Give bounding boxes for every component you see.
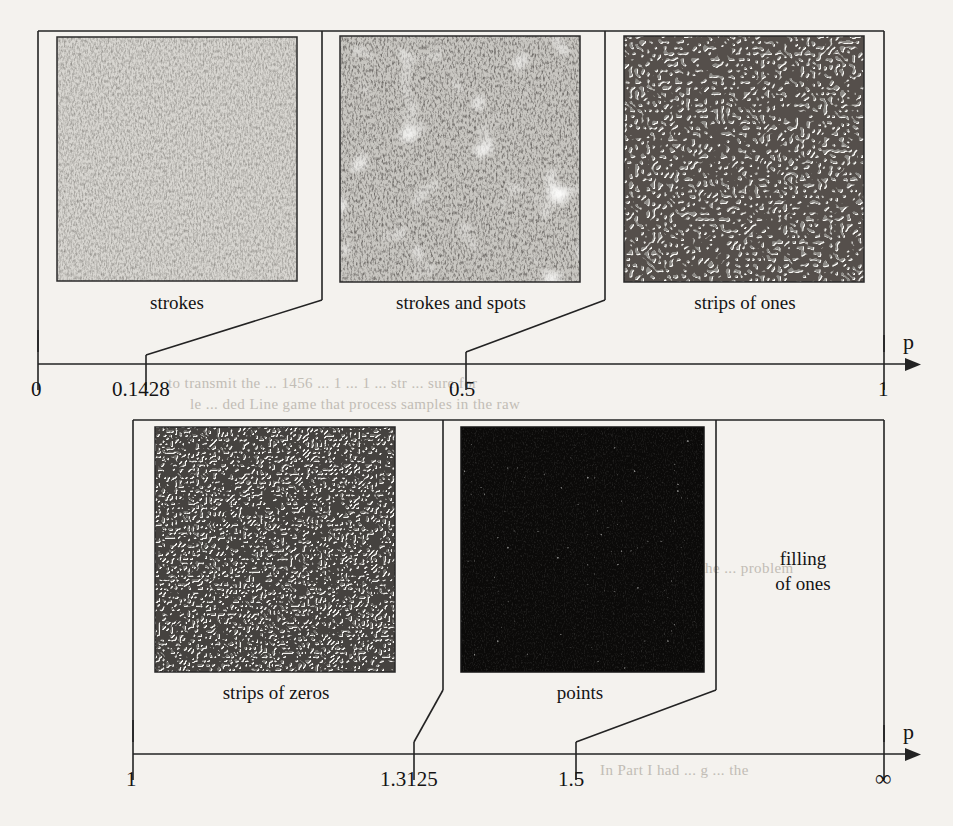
panel-caption-strips-of-ones: strips of ones [654,291,836,314]
panel-caption-strips-of-zeros: strips of zeros [190,681,362,704]
panel-strokes [57,37,297,281]
panel-caption-filling-of-ones-line1: filling [726,547,880,570]
panel-strips-of-ones [624,36,864,282]
bottom-axis-arrow [905,748,921,761]
bottom-axis-name: p [903,719,914,745]
bottom-panels [155,427,704,672]
tick-label-top-0: 0 [31,377,42,402]
panel-strokes-and-spots [340,36,580,282]
panel-caption-filling-of-ones-line2: of ones [726,572,880,595]
bottom-axis [133,720,905,780]
tick-label-top-0-5: 0.5 [449,377,475,402]
panel-caption-strokes-and-spots: strokes and spots [370,291,552,314]
tick-label-bottom-1-5: 1.5 [558,767,584,792]
top-panels [57,36,864,282]
tick-label-bottom-infinity: ∞ [875,766,891,792]
panel-points [461,427,704,672]
panel-caption-points: points [500,681,660,704]
tick-label-bottom-1-3125: 1.3125 [380,767,438,792]
top-axis-arrow [905,358,921,371]
tick-label-bottom-1: 1 [126,767,137,792]
figure-canvas [0,0,953,826]
top-axis-name: p [903,329,914,355]
tick-label-top-1: 1 [878,377,889,402]
tick-label-top-0-1428: 0.1428 [112,377,170,402]
panel-caption-strokes: strokes [97,291,257,314]
panel-strips-of-zeros [155,427,395,672]
